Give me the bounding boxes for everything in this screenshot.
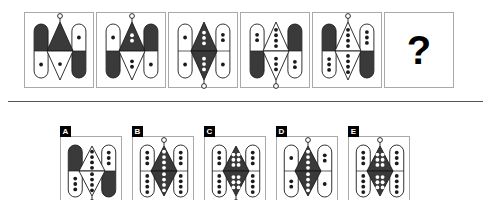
option-b[interactable]: B [132,126,194,200]
option-e[interactable]: E [348,126,410,200]
sequence-row: ? [24,12,454,88]
option-e-panel[interactable] [348,136,410,200]
sequence-panel-5 [312,12,382,88]
options-row: ABCDE [60,126,410,194]
sequence-panel-3 [168,12,238,88]
sequence-panel-1 [24,12,94,88]
option-a-panel[interactable] [60,136,122,200]
sequence-panel-2 [96,12,166,88]
puzzle-root: ? ABCDE [0,0,491,200]
option-b-panel[interactable] [132,136,194,200]
sequence-panel-question: ? [384,12,454,88]
option-c[interactable]: C [204,126,266,200]
sequence-panel-4 [240,12,310,88]
option-letter-badge: B [132,126,143,137]
option-letter-badge: E [348,126,359,137]
option-a[interactable]: A [60,126,122,200]
option-letter-badge: D [276,126,287,137]
option-d-panel[interactable] [276,136,338,200]
option-letter-badge: C [204,126,215,137]
question-mark: ? [385,13,453,87]
option-c-panel[interactable] [204,136,266,200]
option-d[interactable]: D [276,126,338,200]
option-letter-badge: A [60,126,71,137]
section-divider [8,101,483,102]
